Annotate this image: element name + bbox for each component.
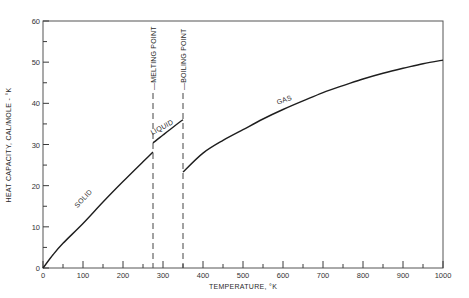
solid-label: SOLID (73, 188, 93, 209)
x-tick-label: 100 (77, 271, 90, 280)
plot-border (43, 21, 443, 268)
boiling-point-label: —BOILING POINT (180, 28, 187, 90)
y-tick-label: 60 (32, 17, 40, 26)
curve-annotations: SOLIDLIQUIDGAS (73, 94, 293, 209)
gas-label: GAS (276, 94, 293, 106)
x-tick-label: 0 (41, 271, 45, 280)
x-tick-label: 900 (397, 271, 410, 280)
y-tick-label: 0 (36, 264, 40, 273)
y-axis-title: HEAT CAPACITY, CAL/MOLE - °K (5, 88, 12, 203)
x-tick-label: 400 (197, 271, 210, 280)
x-tick-label: 800 (357, 271, 370, 280)
y-tick-label: 20 (32, 182, 40, 191)
liquid-label: LIQUID (149, 118, 174, 137)
x-tick-label: 300 (157, 271, 170, 280)
x-axis-title: TEMPERATURE, °K (209, 283, 277, 290)
y-axis-ticks: 0102030405060 (32, 17, 49, 273)
heat-capacity-curves (43, 60, 443, 268)
y-tick-label: 50 (32, 58, 40, 67)
x-tick-label: 600 (277, 271, 290, 280)
x-axis-ticks: 01002003004005006007008009001000 (41, 261, 451, 280)
solid-curve (43, 152, 153, 268)
x-tick-label: 500 (237, 271, 250, 280)
gas-curve (183, 60, 443, 172)
y-tick-label: 30 (32, 141, 40, 150)
melting-point-label: —MELTING POINT (150, 26, 157, 90)
y-tick-label: 40 (32, 99, 40, 108)
x-tick-label: 200 (117, 271, 130, 280)
phase-transition-lines: —MELTING POINT—BOILING POINT (150, 26, 187, 268)
plot-frame (43, 21, 443, 268)
x-tick-label: 700 (317, 271, 330, 280)
y-tick-label: 10 (32, 223, 40, 232)
heat-capacity-chart: 01002003004005006007008009001000 0102030… (0, 0, 469, 298)
x-tick-label: 1000 (435, 271, 452, 280)
